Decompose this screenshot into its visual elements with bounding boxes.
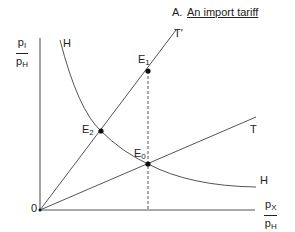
- e2-label: E2: [82, 124, 94, 138]
- e0-label: E0: [134, 148, 146, 162]
- diagram-canvas: [0, 0, 295, 232]
- point-e0: [145, 161, 150, 166]
- y-axis-label: pI pH: [16, 36, 28, 71]
- t-prime-line-label: T′: [174, 28, 183, 39]
- e1-label: E1: [138, 54, 150, 68]
- point-e2: [98, 128, 103, 133]
- h-curve: [60, 40, 256, 187]
- h-curve-label-end: H: [260, 175, 268, 186]
- origin-label: 0: [31, 203, 37, 214]
- t-prime-line: [40, 30, 176, 210]
- x-axis-label: pX pH: [264, 198, 277, 232]
- h-curve-label-top: H: [63, 38, 71, 49]
- point-e1: [145, 68, 150, 73]
- origin-point: [39, 209, 42, 212]
- t-line-label: T: [250, 124, 257, 135]
